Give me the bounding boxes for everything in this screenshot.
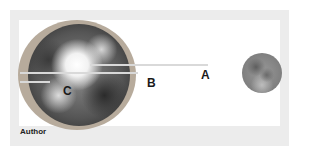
earth-globe [28, 24, 130, 126]
distance-line-b [20, 72, 138, 74]
author-credit: Author [20, 127, 46, 136]
moon [242, 53, 282, 93]
distance-line-c [20, 81, 50, 83]
label-a: A [201, 68, 210, 82]
label-b: B [147, 76, 156, 90]
label-c: C [63, 84, 72, 98]
distance-line-a [90, 64, 208, 66]
